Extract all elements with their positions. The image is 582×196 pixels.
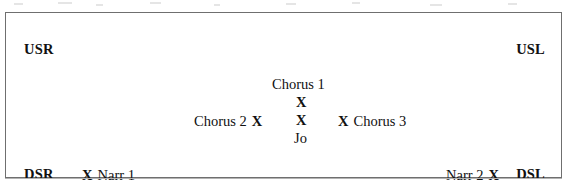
scan-artifact-band	[0, 0, 582, 12]
blocking-label-chorus-3: Chorus 3	[353, 113, 406, 129]
blocking-label-narrator-2: Narr 2	[446, 167, 483, 183]
stage-area-rectangle: USR USL DSR DSL Chorus 1 X Chorus 2X X X…	[5, 12, 562, 178]
stage-label-upstage-right: USR	[24, 42, 54, 57]
blocking-entry-chorus-3: XChorus 3	[338, 113, 406, 129]
blocking-label-narrator-1: Narr 1	[97, 167, 134, 183]
blocking-mark-jo: X	[296, 113, 306, 128]
stage-label-downstage-left: DSL	[516, 167, 545, 182]
blocking-mark-chorus-2: X	[252, 113, 262, 129]
blocking-label-chorus-1: Chorus 1	[272, 77, 325, 92]
stage-label-upstage-left: USL	[516, 42, 545, 57]
blocking-mark-narrator-2: X	[489, 167, 499, 183]
blocking-mark-chorus-1: X	[296, 95, 306, 110]
blocking-entry-narrator-2: Narr 2X	[446, 167, 499, 183]
blocking-mark-chorus-3: X	[338, 113, 348, 129]
blocking-label-jo: Jo	[294, 131, 307, 146]
blocking-mark-narrator-1: X	[82, 167, 92, 183]
blocking-label-chorus-2: Chorus 2	[194, 113, 247, 129]
blocking-entry-narrator-1: XNarr 1	[82, 167, 135, 183]
blocking-entry-chorus-2: Chorus 2X	[194, 113, 262, 129]
stage-label-downstage-right: DSR	[24, 167, 54, 182]
